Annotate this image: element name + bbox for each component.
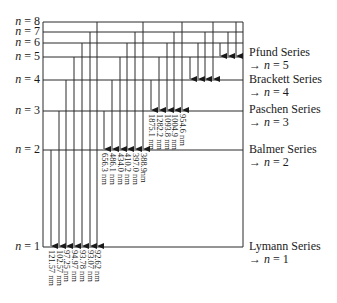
wavelength-label: 97.25 nm xyxy=(62,250,70,282)
series-target: → n = 1 xyxy=(249,253,321,266)
wavelength-label: 92.62 nm xyxy=(93,250,101,282)
level-label-n4: n = 4 xyxy=(0,73,40,85)
series-label-balmer: Balmer Series→ n = 2 xyxy=(249,143,317,169)
wavelength-label: 954.6 nm xyxy=(178,114,186,146)
wavelength-label: 94.97 nm xyxy=(70,250,78,282)
series-label-paschen: Paschen Series→ n = 3 xyxy=(249,103,321,129)
level-label-n1: n = 1 xyxy=(0,240,40,252)
wavelength-label: 388.9nm xyxy=(139,153,147,183)
wavelength-label: 121.57 nm xyxy=(47,250,55,286)
level-label-n5: n = 5 xyxy=(0,50,40,62)
wavelength-label: 486.1 nm xyxy=(108,153,116,185)
wavelength-label: 410.2 nm xyxy=(123,153,131,185)
series-label-lymann: Lymann Series→ n = 1 xyxy=(249,240,321,266)
level-label-n8: n = 8 xyxy=(0,15,40,27)
series-label-pfund: Pfund Series→ n = 5 xyxy=(249,46,310,72)
series-label-brackett: Brackett Series→ n = 4 xyxy=(249,73,322,99)
wavelength-label: 656.3 nm xyxy=(100,153,108,185)
series-target: → n = 4 xyxy=(249,86,322,99)
series-target: → n = 5 xyxy=(249,59,310,72)
transition-arrows xyxy=(51,22,236,246)
wavelength-label: 93.78 nm xyxy=(78,250,86,282)
wavelength-label: 1282.2 nm xyxy=(155,114,163,150)
level-label-n2: n = 2 xyxy=(0,143,40,155)
series-target: → n = 2 xyxy=(249,156,317,169)
level-label-n3: n = 3 xyxy=(0,104,40,116)
wavelength-label: 1004.9 nm xyxy=(170,114,178,150)
wavelength-label: 1875.1 nm xyxy=(147,114,155,150)
series-target: → n = 3 xyxy=(249,116,321,129)
wavelength-label: 397.0 nm xyxy=(131,153,139,185)
